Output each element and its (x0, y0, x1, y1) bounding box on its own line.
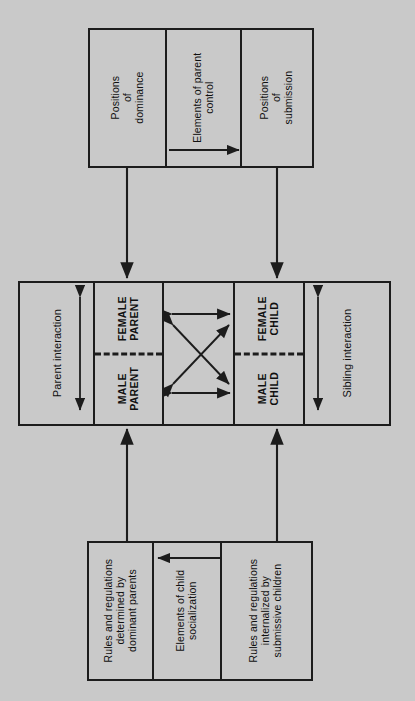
cell-positions-of-dominance: Positionsofdominance (90, 30, 165, 166)
male-parent-label: MALEPARENT (117, 367, 141, 411)
diagram-canvas: Positionsofdominance Elements of parentc… (0, 0, 415, 701)
cross-interaction-arrows (164, 283, 232, 424)
cell-parent-interaction: Parent interaction (20, 283, 93, 424)
cell-positions-of-submission: Positionsofsubmission (240, 30, 312, 166)
cell-parents: FEMALEPARENT MALEPARENT (93, 283, 162, 424)
cell-female-child: FEMALECHILD (246, 283, 291, 354)
rules-determined-by-parents-label: Rules and regulationsdetermined bydomina… (103, 559, 138, 663)
parent-control-box: Positionsofdominance Elements of parentc… (88, 28, 314, 168)
cell-male-child: MALECHILD (252, 354, 286, 425)
cell-rules-determined-by-parents: Rules and regulationsdetermined bydomina… (89, 543, 152, 679)
parent-control-arrow (167, 30, 240, 166)
family-members-box: Parent interaction FEMALEPARENT MALEPARE… (18, 281, 391, 426)
child-socialization-arrow (154, 543, 220, 679)
female-parent-label: FEMALEPARENT (117, 296, 141, 341)
positions-of-submission-label: Positionsofsubmission (259, 71, 294, 125)
cell-male-parent: MALEPARENT (107, 354, 151, 425)
rules-internalized-by-children-label: Rules and regulationsinternalized bysubm… (249, 559, 284, 663)
cell-rules-internalized-by-children: Rules and regulationsinternalized bysubm… (220, 543, 311, 679)
male-child-label: MALECHILD (257, 372, 281, 406)
cell-elements-of-parent-control: Elements of parentcontrol (165, 30, 240, 166)
child-socialization-box: Rules and regulationsdetermined bydomina… (87, 541, 313, 681)
cell-female-parent: FEMALEPARENT (106, 283, 151, 354)
sibling-interaction-arrow (305, 283, 377, 424)
cell-elements-of-child-socialization: Elements of childsocialization (152, 543, 220, 679)
cell-sibling-interaction: Sibling interaction (303, 283, 389, 424)
female-child-label: FEMALECHILD (257, 296, 281, 341)
cell-children: FEMALECHILD MALECHILD (233, 283, 303, 424)
parent-interaction-arrow (20, 283, 93, 424)
positions-of-dominance-label: Positionsofdominance (110, 72, 145, 124)
cell-interaction-arrows (162, 283, 232, 424)
